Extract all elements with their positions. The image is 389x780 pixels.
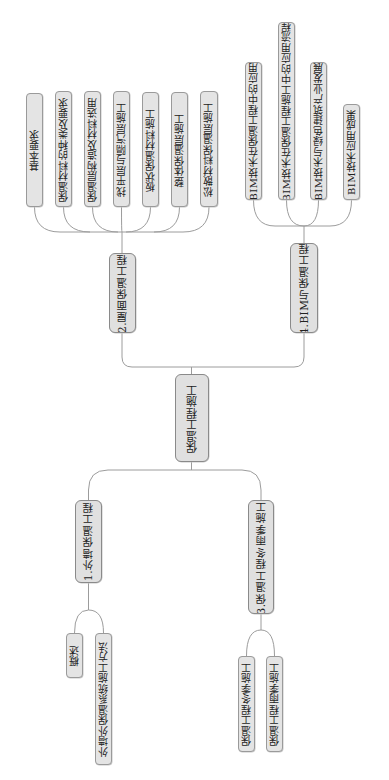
leaf-label: 保温工程雨季施工 xyxy=(270,662,280,746)
leaf-node[interactable]: BIM技术应用成果 xyxy=(343,104,360,200)
leaf-node[interactable]: 保温材料的种类及要求 xyxy=(55,91,72,207)
leaf-label: BIM技术在保温工程中的应用 xyxy=(249,62,259,200)
branch-node-exterior-wall[interactable]: 1.外墙保温工程 xyxy=(75,500,102,583)
center-node[interactable]: 保温工程施工 xyxy=(175,374,209,462)
leaf-label: BIM技术与绿色建筑产业发展 xyxy=(314,62,324,200)
leaf-node[interactable]: 板状保温材料施工 xyxy=(142,92,159,207)
leaf-label: 松散材料保温层施工 xyxy=(204,102,214,197)
branch-label: 1.外墙保温工程 xyxy=(83,501,94,581)
leaf-label: BIM技术在保温工程施工中的应用流程 xyxy=(282,22,292,200)
leaf-node[interactable]: 基本要求 xyxy=(26,93,43,207)
branch-node-winter-rain[interactable]: 3.保温工程冬雨季施工 xyxy=(248,500,274,614)
branch-label: 3.保温工程冬雨季施工 xyxy=(256,500,267,614)
leaf-label: 保温工程冬季施工 xyxy=(242,662,252,746)
branch-node-bim[interactable]: 4.BIM与保温工程 xyxy=(290,243,318,333)
leaf-node[interactable]: BIM技术与绿色建筑产业发展 xyxy=(310,62,327,200)
leaf-label: 外墙外保温系统施工方法 xyxy=(99,641,109,757)
center-node-label: 保温工程施工 xyxy=(187,384,198,453)
leaf-label: 板状保温材料施工 xyxy=(146,108,156,192)
leaf-node[interactable]: 整体保温层施工 xyxy=(171,92,188,207)
branch-label: 2.屋面保温工程 xyxy=(117,253,128,333)
mind-map: 保温工程施工 2.屋面保温工程 基本要求 保温材料的种类及要求 保温层构造及材料… xyxy=(0,0,389,780)
leaf-node[interactable]: 找平层与隔汽层施工 xyxy=(113,91,130,207)
leaf-node[interactable]: 松散材料保温层施工 xyxy=(200,91,218,207)
leaf-node[interactable]: 外墙外保温系统施工方法 xyxy=(95,633,112,765)
leaf-label: 找平层与隔汽层施工 xyxy=(117,102,127,197)
leaf-label: 基本要求 xyxy=(30,129,40,171)
leaf-label: 概述 xyxy=(70,645,80,666)
leaf-node[interactable]: BIM技术在保温工程施工中的应用流程 xyxy=(278,22,295,200)
leaf-node[interactable]: 概述 xyxy=(66,633,83,678)
branch-node-roof-insulation[interactable]: 2.屋面保温工程 xyxy=(109,253,136,333)
leaf-label: 保温层构造及材料选用 xyxy=(88,97,98,202)
leaf-node[interactable]: 保温工程雨季施工 xyxy=(266,656,283,752)
leaf-node[interactable]: BIM技术在保温工程中的应用 xyxy=(245,62,262,200)
leaf-label: 整体保温层施工 xyxy=(175,113,185,187)
leaf-label: BIM技术应用成果 xyxy=(347,109,357,195)
leaf-node[interactable]: 保温工程冬季施工 xyxy=(238,656,255,752)
branch-label: 4.BIM与保温工程 xyxy=(299,243,310,333)
leaf-label: 保温材料的种类及要求 xyxy=(59,97,69,202)
leaf-node[interactable]: 保温层构造及材料选用 xyxy=(84,91,101,207)
